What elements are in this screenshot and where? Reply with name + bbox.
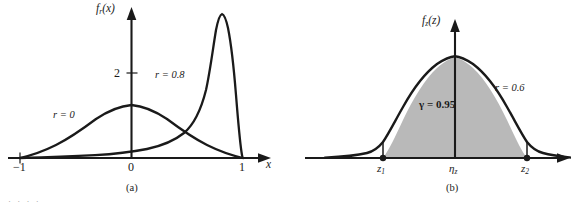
x-ticklabel-eta-z: ηz (449, 163, 457, 176)
y-ticklabel-two: 2 (114, 67, 120, 79)
point-marker-z1 (380, 155, 386, 161)
panel-b: fz(z) γ = 0.95 r = 0.6 z1 ηz z2 (b) (285, 0, 571, 203)
x-ticklabel-zero: 0 (128, 161, 134, 173)
x-ticklabel-one: 1 (239, 161, 245, 173)
page-edge-artifact: · · · · (8, 196, 41, 203)
confidence-level-label: γ = 0.95 (419, 99, 455, 110)
curve-label-r08: r = 0.8 (155, 70, 185, 81)
curve-label-r0: r = 0 (53, 110, 75, 121)
panel-b-caption: (b) (446, 182, 458, 193)
x-axis-name-a: x (266, 159, 271, 171)
x-ticklabel-z1: z1 (377, 163, 385, 176)
y-axis-label-b-arg: (z) (428, 14, 440, 26)
curve-label-r06: r = 0.6 (495, 83, 525, 94)
panel-a: fr(x) x −1 0 1 2 r = 0 r = 0.8 (a) (0, 0, 285, 203)
x-ticklabel-z2-sub: 2 (525, 167, 529, 176)
x-ticklabel-z2: z2 (521, 163, 529, 176)
panel-a-caption: (a) (126, 182, 138, 193)
x-ticklabel-minus-one: −1 (13, 161, 26, 173)
y-axis-label-a-arg: (x) (102, 2, 115, 14)
figure-container: fr(x) x −1 0 1 2 r = 0 r = 0.8 (a) (0, 0, 571, 203)
x-ticklabel-eta-sub: z (454, 167, 457, 176)
y-axis-a (127, 7, 137, 158)
point-marker-z2 (524, 155, 530, 161)
x-ticklabel-z1-sub: 1 (381, 167, 385, 176)
y-axis-label-b: fz(z) (422, 15, 440, 28)
y-axis-label-a: fr(x) (96, 3, 115, 16)
